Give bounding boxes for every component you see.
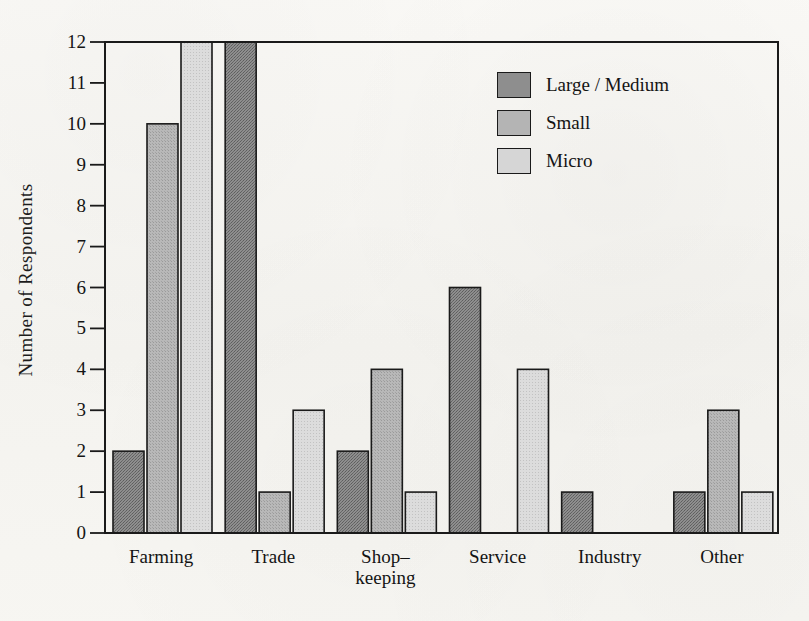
bar xyxy=(259,492,290,533)
bar xyxy=(337,451,368,533)
x-axis-category-label: Shop– keeping xyxy=(355,547,415,588)
legend-swatch xyxy=(497,110,531,136)
bar xyxy=(708,410,739,533)
bar xyxy=(371,369,402,533)
bar xyxy=(147,124,178,533)
bar xyxy=(225,42,256,533)
x-axis-category-label: Service xyxy=(469,547,526,568)
legend-label: Micro xyxy=(546,150,592,172)
bar xyxy=(405,492,436,533)
x-axis-category-label: Trade xyxy=(251,547,295,568)
bar xyxy=(518,369,549,533)
legend-item: Large / Medium xyxy=(497,66,747,104)
bar xyxy=(562,492,593,533)
bar xyxy=(181,42,212,533)
x-axis-category-label: Other xyxy=(700,547,743,568)
legend-label: Small xyxy=(546,112,590,134)
bar-chart: Number of Respondents 1211109876543210 xyxy=(0,0,809,621)
legend-swatch xyxy=(497,148,531,174)
bar xyxy=(450,288,481,534)
x-axis-category-label: Industry xyxy=(578,547,641,568)
bar xyxy=(742,492,773,533)
legend-label: Large / Medium xyxy=(546,74,669,96)
bar xyxy=(674,492,705,533)
bar xyxy=(293,410,324,533)
legend-item: Small xyxy=(497,104,747,142)
chart-legend: Large / MediumSmallMicro xyxy=(497,66,747,180)
legend-item: Micro xyxy=(497,142,747,180)
legend-swatch xyxy=(497,72,531,98)
bar xyxy=(113,451,144,533)
x-axis-category-label: Farming xyxy=(129,547,193,568)
